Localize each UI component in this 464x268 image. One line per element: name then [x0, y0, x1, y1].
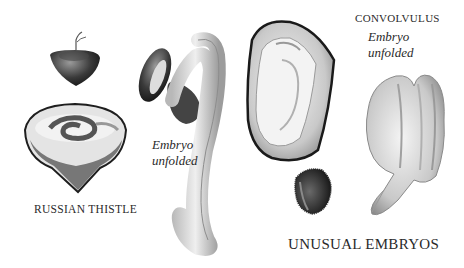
convolvulus-seed-section [248, 21, 335, 160]
thistle-note-line2: unfolded [152, 153, 198, 169]
thistle-note: Embryo unfolded [152, 137, 198, 169]
label-convolvulus: CONVOLVULUS [355, 12, 440, 24]
caption-title: UNUSUAL EMBRYOS [288, 236, 439, 253]
convolvulus-embryo-unfolded [366, 75, 444, 215]
convolvulus-seed-whole [295, 169, 331, 214]
thistle-note-line1: Embryo [152, 137, 198, 153]
label-russian-thistle: RUSSIAN THISTLE [34, 203, 137, 215]
convolvulus-note-line2: unfolded [368, 45, 414, 61]
convolvulus-note: Embryo unfolded [368, 29, 414, 61]
thistle-seed-small [50, 32, 100, 86]
convolvulus-note-line1: Embryo [368, 29, 414, 45]
thistle-seed-section [25, 104, 126, 192]
